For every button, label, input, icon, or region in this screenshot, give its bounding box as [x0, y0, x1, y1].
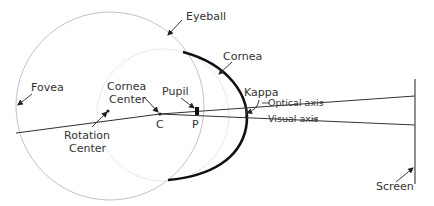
- fovea-label: Fovea: [31, 81, 64, 94]
- rotation-center-pointer: [92, 112, 107, 127]
- fovea-pointer: [18, 94, 32, 105]
- cornea-label: Cornea: [223, 50, 262, 63]
- eyeball-pointer: [168, 20, 182, 35]
- pupil-pointer: [181, 98, 194, 108]
- cornea-center-label-line2: Center: [109, 93, 147, 106]
- rotation-center-label-line1: Rotation: [64, 129, 110, 142]
- eyeball-circle: [16, 12, 204, 200]
- cornea-sphere-circle: [97, 49, 229, 181]
- point-c-dot: [158, 112, 161, 115]
- screen-label: Screen: [376, 180, 414, 193]
- pupil-label: Pupil: [162, 85, 189, 98]
- eye-diagram: Eyeball Cornea Fovea Cornea Center Pupil…: [0, 0, 434, 206]
- cornea-center-label-line1: Cornea: [107, 80, 146, 93]
- rotation-center-label-line2: Center: [69, 142, 107, 155]
- kappa-pointer: [247, 100, 259, 113]
- pupil-marker: [195, 107, 199, 115]
- point-c-label: C: [156, 118, 164, 131]
- point-p-label: P: [192, 118, 199, 131]
- visual-axis-label: Visual axis: [268, 113, 318, 124]
- optical-axis-label: Optical axis: [268, 97, 324, 108]
- cornea-center-pointer: [144, 97, 158, 112]
- eyeball-label: Eyeball: [186, 10, 226, 23]
